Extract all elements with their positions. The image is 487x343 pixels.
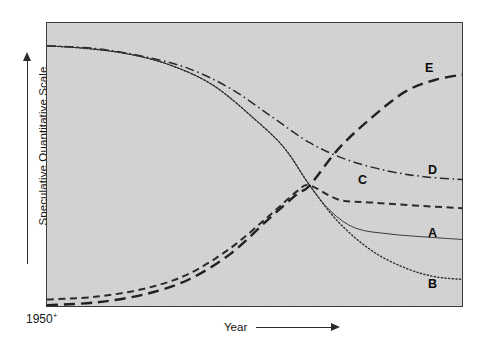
series-line-a [47, 46, 463, 240]
x-axis-arrow-icon [331, 323, 340, 331]
series-label-d: D [428, 163, 437, 177]
chart-figure: Speculative Quantitative Scale E D C A B… [0, 0, 487, 343]
x-axis-origin-label: 1950+ [26, 311, 57, 326]
x-axis-origin-value: 1950 [26, 312, 53, 326]
series-label-a: A [428, 226, 437, 240]
series-line-b [47, 46, 463, 280]
y-axis: Speculative Quantitative Scale [0, 18, 46, 310]
x-axis-origin-superscript: + [53, 311, 58, 320]
series-line-d [47, 46, 463, 180]
x-axis-label: Year [224, 321, 247, 333]
series-label-c: C [358, 173, 367, 187]
series-line-c [47, 185, 463, 299]
series-paths [47, 46, 463, 305]
y-axis-line [27, 60, 28, 264]
curve-canvas [47, 23, 463, 307]
series-line-e [47, 74, 463, 305]
x-axis-line [256, 327, 332, 328]
plot-area: E D C A B [46, 22, 463, 307]
series-label-e: E [425, 61, 434, 75]
series-label-b: B [428, 277, 437, 291]
x-axis: Year [224, 318, 332, 336]
